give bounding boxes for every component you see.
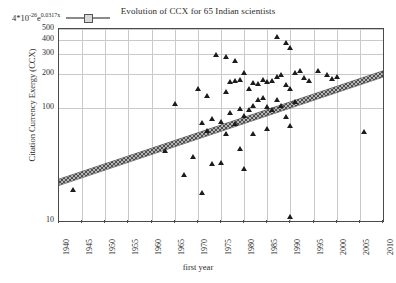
trendline (59, 29, 383, 221)
data-point-marker (264, 126, 270, 131)
x-tick-label: 2005 (362, 239, 371, 255)
data-point-marker (274, 34, 280, 39)
data-point-marker (287, 123, 293, 128)
data-point-marker (237, 146, 243, 151)
data-point-marker (213, 52, 219, 57)
data-point-marker (241, 70, 247, 75)
y-axis-tick-labels: 50040030020010010 (28, 28, 54, 220)
data-point-marker (274, 97, 280, 102)
x-tick-mark (359, 220, 360, 223)
data-point-marker (181, 172, 187, 177)
y-tick-label: 300 (32, 49, 54, 57)
chart-container: Evolution of CCX for 65 Indian scientist… (0, 0, 396, 283)
x-tick-mark (104, 220, 105, 223)
y-tick-label: 100 (32, 103, 54, 111)
data-point-marker (260, 95, 266, 100)
data-point-marker (223, 131, 229, 136)
data-point-marker (246, 86, 252, 91)
x-tick-label: 2010 (386, 239, 395, 255)
data-point-marker (287, 214, 293, 219)
y-tick-label: 10 (32, 216, 54, 224)
data-point-marker (250, 131, 256, 136)
data-point-marker (204, 93, 210, 98)
data-point-marker (232, 58, 238, 63)
data-point-marker (287, 45, 293, 50)
data-point-marker (223, 54, 229, 59)
data-point-marker (283, 114, 289, 119)
data-point-marker (199, 120, 205, 125)
x-tick-mark (174, 220, 175, 223)
data-point-marker (361, 129, 367, 134)
data-point-marker (223, 89, 229, 94)
data-point-marker (292, 99, 298, 104)
x-tick-label: 1995 (316, 239, 325, 255)
x-tick-mark (197, 220, 198, 223)
data-point-marker (209, 116, 215, 121)
data-point-marker (218, 160, 224, 165)
x-tick-label: 1950 (108, 239, 117, 255)
x-tick-mark (151, 220, 152, 223)
x-axis-title: first year (0, 262, 396, 272)
data-point-marker (278, 72, 284, 77)
x-tick-label: 1980 (247, 239, 256, 255)
data-point-marker (297, 68, 303, 73)
data-point-marker (190, 154, 196, 159)
plot-area (58, 28, 384, 222)
legend-sample-trendline (66, 13, 110, 22)
x-tick-mark (382, 220, 383, 223)
data-point-marker (209, 161, 215, 166)
data-point-marker (278, 103, 284, 108)
data-point-marker (237, 106, 243, 111)
x-tick-label: 1975 (224, 239, 233, 255)
data-point-marker (199, 190, 205, 195)
data-point-marker (241, 166, 247, 171)
x-tick-mark (289, 220, 290, 223)
data-point-marker (250, 103, 256, 108)
data-point-marker (218, 119, 224, 124)
x-tick-label: 2000 (339, 239, 348, 255)
x-tick-mark (127, 220, 128, 223)
x-tick-label: 1945 (85, 239, 94, 255)
x-axis-tick-labels: 1940194519501955196019651970197519801985… (58, 222, 382, 262)
y-tick-label: 400 (32, 35, 54, 43)
legend-formula: 4*10-26e0.0317x (12, 12, 60, 23)
y-tick-label: 200 (32, 69, 54, 77)
legend: 4*10-26e0.0317x (12, 12, 110, 23)
legend-marker-box (84, 14, 93, 23)
y-tick-label: 500 (32, 24, 54, 32)
data-point-marker (204, 128, 210, 133)
data-point-marker (306, 78, 312, 83)
x-tick-label: 1990 (293, 239, 302, 255)
data-point-marker (334, 74, 340, 79)
x-tick-mark (81, 220, 82, 223)
data-point-marker (237, 77, 243, 82)
x-tick-mark (266, 220, 267, 223)
x-tick-mark (58, 220, 59, 223)
data-point-marker (172, 101, 178, 106)
data-point-marker (255, 81, 261, 86)
x-tick-mark (313, 220, 314, 223)
data-point-marker (162, 148, 168, 153)
x-tick-label: 1965 (177, 239, 186, 255)
x-tick-mark (243, 220, 244, 223)
data-point-marker (315, 68, 321, 73)
x-tick-label: 1970 (200, 239, 209, 255)
data-point-marker (227, 110, 233, 115)
x-tick-label: 1955 (131, 239, 140, 255)
data-point-marker (287, 86, 293, 91)
data-point-marker (283, 40, 289, 45)
data-point-marker (269, 107, 275, 112)
data-point-marker (195, 86, 201, 91)
data-point-marker (246, 107, 252, 112)
data-point-marker (232, 121, 238, 126)
x-tick-label: 1985 (270, 239, 279, 255)
x-tick-label: 1940 (62, 239, 71, 255)
data-point-marker (70, 187, 76, 192)
x-tick-label: 1960 (154, 239, 163, 255)
x-tick-mark (220, 220, 221, 223)
grid-line-vertical (383, 29, 384, 221)
data-point-marker (241, 113, 247, 118)
x-tick-mark (336, 220, 337, 223)
